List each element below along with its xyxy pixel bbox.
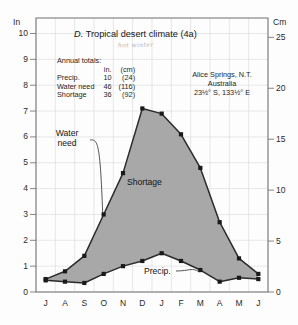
x-axis-month-3-october: O: [97, 298, 111, 308]
water-need-point-D-5: [140, 106, 144, 110]
station-country: Australia: [172, 79, 272, 88]
station-info-block: Alice Springs, N.T. Australia 23½° S, 13…: [172, 70, 272, 97]
left-axis-tick-5: 5: [6, 157, 28, 167]
precip-point-N-4: [121, 264, 125, 268]
left-axis-tick-10: 10: [6, 28, 28, 38]
water-need-label-line2: need: [44, 138, 90, 148]
annual-totals-block: Annual totals: in. (cm) Precip. 10 (24) …: [57, 57, 135, 100]
water-need-label: Water need: [44, 128, 90, 148]
right-axis-tick-0: 0: [276, 287, 298, 297]
precip-point-S-2: [82, 281, 86, 285]
figure-title-text: Tropical desert climate (4a): [86, 29, 197, 39]
x-axis-month-4-november: N: [116, 298, 130, 308]
right-axis-tick-5: 5: [276, 236, 298, 246]
precip-label: Precip.: [144, 266, 171, 276]
figure-title-prefix: D.: [74, 29, 83, 39]
precip-point-D-5: [140, 259, 144, 263]
precip-point-A-9: [218, 280, 222, 284]
water-need-point-A-1: [63, 269, 67, 273]
left-axis-unit-label: In: [13, 17, 21, 27]
water-need-point-J-0: [44, 277, 48, 281]
x-axis-month-5-december: D: [135, 298, 149, 308]
x-axis-month-1-august: A: [58, 298, 72, 308]
water-need-label-line1: Water: [44, 128, 90, 138]
left-axis-tick-4: 4: [6, 183, 28, 193]
annual-totals-table: in. (cm) Precip. 10 (24) Water need 46 (…: [57, 66, 135, 100]
right-axis-tick-10: 10: [276, 185, 298, 195]
handwritten-annotation: hot winter: [118, 41, 154, 49]
right-axis-tick-25: 25: [276, 32, 298, 42]
left-axis-tick-1: 1: [6, 261, 28, 271]
left-axis-tick-6: 6: [6, 131, 28, 141]
right-axis-tick-15: 15: [276, 134, 298, 144]
station-coordinates: 23½° S, 133½° E: [172, 88, 272, 97]
left-axis-tick-2: 2: [6, 235, 28, 245]
left-axis-tick-7: 7: [6, 106, 28, 116]
precip-point-F-7: [179, 259, 183, 263]
right-axis-tick-20: 20: [276, 83, 298, 93]
x-axis-month-2-september: S: [77, 298, 91, 308]
water-need-point-M-8: [198, 166, 202, 170]
x-axis-month-7-february: F: [174, 298, 188, 308]
water-need-point-S-2: [82, 254, 86, 258]
left-axis-tick-8: 8: [6, 80, 28, 90]
right-axis-unit-label: Cm: [273, 17, 287, 27]
x-axis-month-11-june: J: [251, 298, 265, 308]
precip-point-A-1: [63, 280, 67, 284]
precip-point-M-10: [237, 276, 241, 280]
water-need-point-A-9: [218, 220, 222, 224]
annual-totals-row-inches: 36: [94, 91, 111, 100]
climate-figure: In Cm 012345678910 0510152025 JASONDJFMA…: [0, 0, 298, 325]
table-row: Shortage 36 (92): [57, 91, 135, 100]
station-name: Alice Springs, N.T.: [172, 70, 272, 79]
climate-chart-plot: [0, 0, 298, 325]
water-need-point-J-6: [160, 112, 164, 116]
water-need-point-N-4: [121, 171, 125, 175]
x-axis-month-6-january: J: [155, 298, 169, 308]
water-need-point-O-3: [102, 212, 106, 216]
figure-title: D. Tropical desert climate (4a): [74, 29, 197, 39]
shortage-label: Shortage: [127, 177, 162, 187]
x-axis-month-10-may: M: [232, 298, 246, 308]
left-axis-tick-9: 9: [6, 54, 28, 64]
x-axis-month-0-july: J: [39, 298, 53, 308]
annual-totals-row-label: Shortage: [57, 91, 94, 100]
annual-totals-row-cm: (92): [112, 91, 136, 100]
precip-point-O-3: [102, 272, 106, 276]
left-axis-tick-3: 3: [6, 209, 28, 219]
water-need-point-F-7: [179, 132, 183, 136]
precip-point-J-6: [160, 251, 164, 255]
x-axis-month-8-march: M: [193, 298, 207, 308]
precip-point-J-11: [256, 277, 260, 281]
left-axis-tick-0: 0: [6, 287, 28, 297]
x-axis-month-9-april: A: [213, 298, 227, 308]
water-need-point-J-11: [256, 272, 260, 276]
water-need-point-M-10: [237, 256, 241, 260]
